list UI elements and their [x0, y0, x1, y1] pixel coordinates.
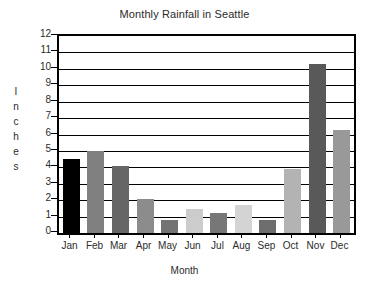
- bar-may: [161, 220, 178, 233]
- y-axis-tick-label: 10: [27, 62, 51, 72]
- x-axis-tick-label: Jan: [57, 240, 82, 251]
- y-axis-tick-label: 12: [27, 29, 51, 39]
- y-axis-tick-label: 9: [27, 78, 51, 88]
- y-axis-tick-labels: 1211109876543210: [25, 34, 51, 231]
- x-axis-tick-mark: [69, 233, 70, 238]
- x-axis-tick-label: Sep: [254, 240, 279, 251]
- x-axis-tick-mark: [340, 233, 341, 238]
- x-axis-tick-label: Mar: [106, 240, 131, 251]
- bar-aug: [235, 205, 252, 233]
- y-axis-tick-label: 2: [27, 193, 51, 203]
- bar-jan: [63, 159, 80, 233]
- x-axis-tick-label: Dec: [327, 240, 352, 251]
- y-axis-tick-mark: [51, 133, 57, 134]
- rainfall-bar-chart: Monthly Rainfall in Seattle Inches 12111…: [0, 0, 369, 292]
- y-axis-tick-mark: [51, 198, 57, 199]
- x-axis-tick-mark: [291, 233, 292, 238]
- y-axis-tick-label: 1: [27, 210, 51, 220]
- y-axis-tick-mark: [51, 67, 57, 68]
- x-axis-tick-mark: [168, 233, 169, 238]
- x-axis-tick-label: Nov: [303, 240, 328, 251]
- y-axis-title-letter: c: [8, 114, 24, 129]
- y-axis-tick-mark: [51, 165, 57, 166]
- x-axis-tick-label: Aug: [229, 240, 254, 251]
- y-axis-tick-mark: [51, 215, 57, 216]
- y-axis-title-letter: I: [8, 84, 24, 99]
- x-axis-tick-mark: [315, 233, 316, 238]
- bar-oct: [284, 169, 301, 233]
- x-axis-title: Month: [0, 265, 369, 276]
- bar-jun: [186, 209, 203, 233]
- y-axis-tick-mark: [51, 83, 57, 84]
- bar-jul: [210, 213, 227, 233]
- x-axis-tick-label: Oct: [278, 240, 303, 251]
- y-axis-tick-mark: [51, 182, 57, 183]
- y-axis-tick-label: 3: [27, 177, 51, 187]
- x-axis-tick-mark: [94, 233, 95, 238]
- y-axis-title-letter: n: [8, 99, 24, 114]
- chart-title: Monthly Rainfall in Seattle: [0, 8, 369, 20]
- x-axis-tick-mark: [266, 233, 267, 238]
- y-axis-title-letter: e: [8, 144, 24, 159]
- x-axis-tick-mark: [143, 233, 144, 238]
- y-axis-tick-mark: [51, 34, 57, 35]
- y-axis-title-letter: h: [8, 129, 24, 144]
- y-axis-tick-label: 4: [27, 160, 51, 170]
- bar-nov: [309, 64, 326, 233]
- y-axis-tick-mark: [51, 231, 57, 232]
- y-axis-tick-label: 8: [27, 95, 51, 105]
- x-axis-tick-mark: [118, 233, 119, 238]
- y-axis-tick-mark: [51, 149, 57, 150]
- y-axis-tick-mark: [51, 116, 57, 117]
- x-axis-tick-label: Feb: [82, 240, 107, 251]
- bar-mar: [112, 166, 129, 233]
- x-axis-tick-label: Jul: [205, 240, 230, 251]
- y-axis-tick-mark: [51, 100, 57, 101]
- x-axis-tick-mark: [241, 233, 242, 238]
- plot-area: [57, 34, 356, 235]
- y-axis-tick-label: 11: [27, 45, 51, 55]
- y-axis-tick-mark: [51, 50, 57, 51]
- y-axis-tick-label: 6: [27, 128, 51, 138]
- x-axis-tick-mark: [217, 233, 218, 238]
- bar-feb: [87, 151, 104, 233]
- bar-dec: [333, 130, 350, 233]
- y-axis-tick-label: 5: [27, 144, 51, 154]
- y-axis-tick-label: 0: [27, 226, 51, 236]
- y-axis-tick-label: 7: [27, 111, 51, 121]
- x-axis-tick-label: Apr: [131, 240, 156, 251]
- x-axis-tick-label: May: [155, 240, 180, 251]
- bar-apr: [137, 199, 154, 233]
- x-axis-tick-label: Jun: [180, 240, 205, 251]
- gridline: [59, 52, 354, 53]
- y-axis-title: Inches: [8, 84, 24, 174]
- y-axis-title-letter: s: [8, 159, 24, 174]
- bar-sep: [259, 220, 276, 233]
- x-axis-tick-mark: [192, 233, 193, 238]
